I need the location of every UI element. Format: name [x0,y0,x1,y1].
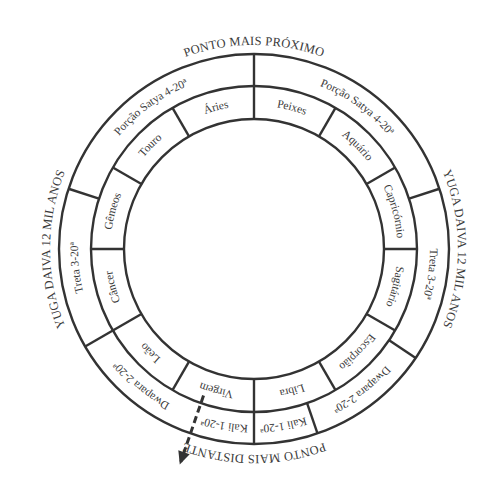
zodiac-divider [173,108,190,137]
zodiac-divider [367,314,396,331]
left-label: YUGA DAIVA 12 MIL ANOS [39,168,68,331]
zodiac-label: Gêmeos [101,190,123,230]
outer-segment-label: Kali 1-20ª [259,416,308,436]
zodiac-divider [173,362,190,391]
right-label: YUGA DAIVA 12 MIL ANOS [440,168,469,331]
zodiac-divider [367,168,396,185]
zodiac-label: Câncer [102,270,122,305]
ring-1 [91,86,417,412]
outer-divider [389,340,416,358]
zodiac-label: Capricórnio [382,182,408,239]
yuga-zodiac-diagram: Porção Satya 4-20ªTreta 3-20ªDwapara 2-2… [0,0,499,499]
zodiac-label: Escorpião [337,332,378,373]
zodiac-label: Áries [202,97,230,115]
zodiac-label: Libra [279,382,306,400]
outer-segment-label: Treta 3-20ª [421,248,440,301]
zodiac-label: Peixes [276,97,309,117]
ring-2 [124,119,384,379]
zodiac-divider [319,108,336,137]
outer-divider [69,189,99,199]
zodiac-label: Leão [137,341,162,366]
zodiac-divider [113,314,142,331]
outer-segment-label: Kali 1-20ª [199,415,248,435]
zodiac-label: Touro [136,130,164,158]
outer-divider [85,331,113,347]
zodiac-label: Sagitário [384,266,406,310]
outer-divider [307,403,317,433]
outer-segment-label: Treta 3-20ª [68,241,85,294]
zodiac-divider [319,362,336,391]
zodiac-divider [113,168,142,185]
outer-divider [409,189,439,199]
